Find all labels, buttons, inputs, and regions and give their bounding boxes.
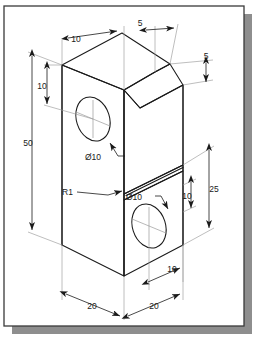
chamfer-horizontal-dimension: 5 (138, 18, 143, 28)
chamfer-vertical-dimension: 5 (204, 51, 209, 61)
drawing-page: 10 5 5 10 50 Ø10 R1 Ø10 25 10 10 20 20 (0, 0, 261, 346)
right-width-dimension: 20 (149, 301, 159, 311)
upper-hole-diameter-callout: Ø10 (85, 152, 101, 162)
top-depth-dimension: 10 (71, 34, 81, 44)
left-width-dimension: 20 (87, 301, 97, 311)
lower-hole-height-dimension: 10 (182, 191, 192, 201)
lower-hole-position-dimension: 10 (167, 264, 177, 274)
upper-hole-height-dimension: 10 (37, 81, 47, 91)
fillet-radius-callout: R1 (62, 187, 73, 197)
lower-block-height-dimension: 25 (209, 184, 219, 194)
lower-hole-diameter-callout: Ø10 (126, 192, 142, 202)
overall-height-dimension: 50 (23, 138, 33, 148)
isometric-drawing-canvas: 10 5 5 10 50 Ø10 R1 Ø10 25 10 10 20 20 (0, 0, 261, 346)
